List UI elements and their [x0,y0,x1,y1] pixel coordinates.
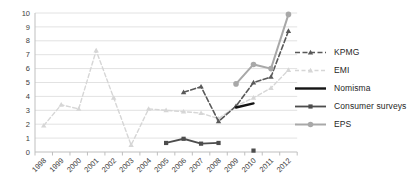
legend-item-consumer-surveys: Consumer surveys [294,99,406,113]
svg-text:2008: 2008 [205,156,223,174]
svg-text:8: 8 [26,36,30,45]
svg-text:2005: 2005 [152,156,170,174]
svg-text:2007: 2007 [187,156,205,174]
nomisma-line-sample-icon [294,83,327,94]
svg-text:9: 9 [26,23,30,32]
legend-label-consumer-surveys: Consumer surveys [334,101,406,111]
legend-item-nomisma: Nomisma [294,81,406,95]
series-consumer-surveys [164,137,256,153]
legend-item-kpmg: KPMG [294,45,406,59]
axes [35,13,297,156]
svg-text:2: 2 [26,120,30,129]
svg-text:1999: 1999 [47,156,65,174]
svg-text:2006: 2006 [170,156,188,174]
svg-text:2003: 2003 [117,156,135,174]
y-axis-labels: 012345678910 [22,9,30,157]
svg-text:2004: 2004 [135,156,153,174]
svg-text:2009: 2009 [222,156,240,174]
legend-label-kpmg: KPMG [334,47,359,57]
legend-item-emi: EMI [294,63,406,77]
svg-text:0: 0 [26,148,30,157]
svg-text:2000: 2000 [65,156,83,174]
legend: KPMG EMI Nomisma Consumer surveys EPS [294,45,406,135]
legend-label-nomisma: Nomisma [334,83,371,93]
kpmg-line-sample-icon [294,47,327,58]
svg-text:4: 4 [26,92,30,101]
svg-text:2011: 2011 [258,156,276,174]
legend-label-eps: EPS [334,119,351,129]
gridlines [35,13,297,152]
emi-line-sample-icon [294,65,327,76]
x-axis-labels: 1998199920002001200220032004200520062007… [30,156,293,174]
svg-text:7: 7 [26,50,30,59]
svg-text:6: 6 [26,64,30,73]
svg-text:5: 5 [26,78,30,87]
svg-text:2002: 2002 [100,156,118,174]
svg-text:2010: 2010 [240,156,258,174]
consumer-surveys-line-sample-icon [294,101,327,112]
svg-text:2012: 2012 [275,156,293,174]
legend-label-emi: EMI [334,65,349,75]
svg-text:3: 3 [26,106,30,115]
eps-line-sample-icon [294,119,327,130]
svg-text:1: 1 [26,134,30,143]
chart: 0123456789101998199920002001200220032004… [0,0,409,189]
svg-text:10: 10 [22,9,30,18]
legend-item-eps: EPS [294,117,406,131]
svg-text:2001: 2001 [82,156,100,174]
svg-text:1998: 1998 [30,156,48,174]
series-kpmg [181,28,291,123]
